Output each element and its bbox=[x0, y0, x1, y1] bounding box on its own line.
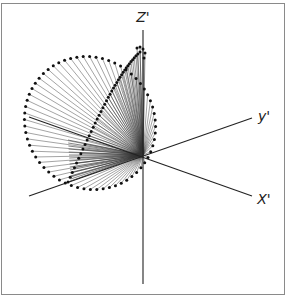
inner-curve-dot bbox=[73, 166, 76, 169]
outer-ring-dot bbox=[26, 99, 29, 102]
outer-ring-dot bbox=[125, 179, 128, 182]
outer-ring-dot bbox=[34, 155, 37, 158]
outer-ring-dot bbox=[75, 56, 78, 59]
outer-ring-dot bbox=[31, 150, 34, 153]
inner-curve-dot bbox=[94, 122, 97, 125]
outer-ring-dot bbox=[57, 61, 60, 64]
outer-ring-dot bbox=[23, 118, 26, 121]
inner-curve-dot bbox=[81, 148, 84, 151]
outer-ring-dot bbox=[130, 72, 133, 75]
outer-ring-dot bbox=[82, 55, 85, 58]
outer-ring-dot bbox=[107, 59, 110, 62]
inner-curve-dot bbox=[139, 46, 142, 49]
inner-curve-dot bbox=[136, 47, 139, 50]
inner-curve-dot bbox=[99, 110, 102, 113]
x-axis-label: X' bbox=[256, 191, 270, 207]
inner-curve-dot bbox=[77, 157, 80, 160]
inner-curve-dot bbox=[103, 103, 106, 106]
outer-ring-dot bbox=[149, 150, 152, 153]
inner-curve-dot bbox=[90, 130, 93, 133]
inner-curve-dot bbox=[79, 152, 82, 155]
outer-ring-dot bbox=[70, 184, 73, 187]
outer-ring-dot bbox=[24, 131, 27, 134]
outer-ring-dot bbox=[38, 161, 41, 164]
outer-ring-dot bbox=[24, 105, 27, 108]
outer-ring-dot bbox=[146, 156, 149, 159]
outer-ring-dot bbox=[108, 186, 111, 189]
outer-ring-dot bbox=[47, 171, 50, 174]
inner-curve-dot bbox=[67, 181, 70, 184]
outer-ring-dot bbox=[143, 88, 146, 91]
inner-curve-dot bbox=[69, 176, 72, 179]
inner-curve-dot bbox=[92, 126, 95, 129]
z-axis-label: Z' bbox=[135, 9, 149, 25]
inner-curve-dot bbox=[119, 76, 122, 79]
inner-curve-dot bbox=[143, 57, 146, 60]
outer-ring-dot bbox=[58, 178, 61, 181]
outer-ring-dot bbox=[154, 119, 157, 122]
outer-ring-dot bbox=[139, 166, 142, 169]
outer-ring-dot bbox=[89, 188, 92, 191]
outer-ring-dot bbox=[34, 82, 37, 85]
outer-ring-dot bbox=[114, 184, 117, 187]
outer-ring-dot bbox=[143, 161, 146, 164]
outer-ring-dot bbox=[88, 55, 91, 58]
outer-ring-dot bbox=[95, 56, 98, 59]
inner-curve-dot bbox=[110, 90, 113, 93]
outer-ring-dot bbox=[82, 187, 85, 190]
inner-curve-dot bbox=[98, 114, 101, 117]
inner-curve-dot bbox=[115, 81, 118, 84]
outer-ring-dot bbox=[38, 77, 41, 80]
outer-ring-dot bbox=[151, 144, 154, 147]
3d-cone-diagram: Z' y' X' bbox=[0, 0, 291, 303]
inner-curve-dot bbox=[101, 106, 104, 109]
outer-ring-dot bbox=[102, 187, 105, 190]
outer-ring-dot bbox=[154, 132, 157, 135]
outer-ring-dot bbox=[42, 166, 45, 169]
outer-ring-dot bbox=[42, 72, 45, 75]
inner-curve-dot bbox=[88, 134, 91, 137]
outer-ring-dot bbox=[146, 93, 149, 96]
inner-curve-dot bbox=[71, 171, 74, 174]
outer-ring-dot bbox=[95, 188, 98, 191]
outer-ring-dot bbox=[64, 182, 67, 185]
outer-ring-dot bbox=[76, 186, 79, 189]
outer-ring-dot bbox=[26, 137, 29, 140]
outer-ring-dot bbox=[149, 99, 152, 102]
inner-curve-dot bbox=[105, 99, 108, 102]
inner-curve-dot bbox=[86, 139, 89, 142]
outer-ring-dot bbox=[139, 82, 142, 85]
outer-ring-dot bbox=[153, 112, 156, 115]
outer-ring-dot bbox=[101, 57, 104, 60]
inner-curve-dot bbox=[84, 143, 87, 146]
outer-ring-dot bbox=[28, 93, 31, 96]
outer-ring-dot bbox=[23, 124, 26, 127]
outer-ring-dot bbox=[52, 64, 55, 67]
outer-ring-dot bbox=[130, 175, 133, 178]
outer-ring-dot bbox=[153, 138, 156, 141]
y-axis-label: y' bbox=[257, 108, 270, 124]
outer-ring-dot bbox=[135, 171, 138, 174]
outer-ring-dot bbox=[63, 59, 66, 62]
outer-ring-dot bbox=[28, 144, 31, 147]
inner-curve-dot bbox=[120, 73, 123, 76]
inner-curve-dot bbox=[75, 161, 78, 164]
outer-ring-dot bbox=[120, 182, 123, 185]
outer-ring-dot bbox=[135, 77, 138, 80]
inner-curve-dot bbox=[96, 118, 99, 121]
inner-curve-dot bbox=[117, 78, 120, 81]
inner-curve-dot bbox=[112, 87, 115, 90]
outer-ring-dot bbox=[52, 175, 55, 178]
inner-curve-dot bbox=[114, 84, 117, 87]
outer-ring-dot bbox=[151, 106, 154, 109]
outer-ring-dot bbox=[23, 111, 26, 114]
outer-ring-dot bbox=[31, 87, 34, 90]
outer-ring-dot bbox=[69, 57, 72, 60]
outer-ring-dot bbox=[47, 68, 50, 71]
inner-curve-dot bbox=[144, 52, 147, 55]
outer-ring-dot bbox=[154, 125, 157, 128]
outer-ring-dot bbox=[113, 61, 116, 64]
outer-ring-dot bbox=[119, 65, 122, 68]
inner-curve-dot bbox=[142, 48, 145, 51]
inner-curve-dot bbox=[109, 93, 112, 96]
